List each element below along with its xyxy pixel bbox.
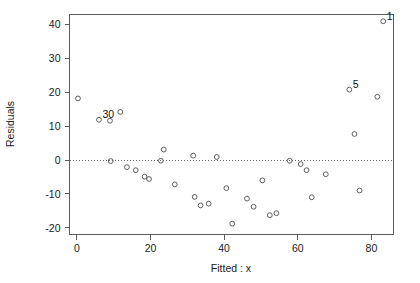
x-tick-label: 0 (74, 242, 80, 254)
residuals-vs-fitted-plot: 020406080 -20-10010203040 3051 Fitted : … (0, 0, 420, 283)
y-tick-label: 30 (49, 52, 61, 64)
x-tick-label: 40 (218, 242, 230, 254)
x-axis-title: Fitted : x (211, 262, 252, 274)
data-point-label: 5 (353, 78, 359, 90)
y-tick-label: -20 (45, 222, 60, 234)
x-tick-label: 20 (145, 242, 157, 254)
x-tick-label: 80 (366, 242, 378, 254)
y-tick-label: 20 (49, 86, 61, 98)
y-tick-label: 10 (49, 120, 61, 132)
y-tick-label: 0 (55, 154, 61, 166)
data-point-label: 1 (387, 10, 393, 22)
y-tick-label: 40 (49, 18, 61, 30)
x-tick-label: 60 (292, 242, 304, 254)
y-axis-title: Residuals (4, 101, 16, 147)
plot-canvas: 020406080 -20-10010203040 3051 Fitted : … (0, 0, 420, 283)
y-tick-label: -10 (45, 188, 60, 200)
data-point-label: 30 (102, 108, 114, 120)
plot-background (0, 0, 420, 283)
